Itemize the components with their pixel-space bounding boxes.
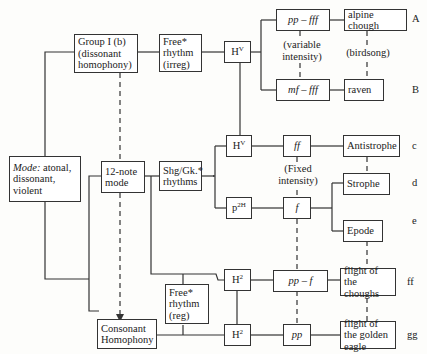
row-label-b: B — [412, 84, 419, 95]
h2-upper-label: H2 — [232, 274, 243, 286]
pp-f-node: pp – f — [273, 270, 328, 292]
raven-label: raven — [348, 84, 380, 96]
f-label: f — [296, 202, 299, 214]
twelve-note-node: 12-note mode — [101, 161, 145, 193]
alpine-chough-label: alpine chough — [348, 9, 403, 32]
hv-top-label: HV — [231, 46, 244, 58]
epode-node: Epode — [343, 220, 383, 242]
mode-label-italic: Mode: — [13, 162, 40, 173]
p2h-label: p2H — [232, 202, 246, 214]
flight-of-eagle-node: flight of the golden eagle — [340, 321, 396, 349]
row-label-e: e — [412, 215, 417, 226]
h2-lower-label: H2 — [232, 329, 243, 341]
pp-fff-node: pp – fff — [276, 9, 330, 31]
group1-label: Group I (b) (dissonant homophony) — [78, 36, 134, 71]
row-label-gg: gg — [407, 329, 418, 340]
row-label-d: d — [412, 177, 417, 188]
h2-lower-node: H2 — [224, 324, 251, 346]
f-node: f — [283, 197, 311, 219]
eagle-flight-label: flight of the golden eagle — [344, 318, 392, 353]
pp-f-label: pp – f — [289, 275, 313, 287]
hv-mid-node: HV — [226, 135, 252, 157]
row-label-c: c — [412, 140, 417, 151]
consonant-homophony-node: Consonant Homophony — [97, 319, 157, 349]
epode-label: Epode — [347, 225, 379, 237]
mf-fff-node: mf – fff — [276, 79, 330, 101]
alpine-chough-node: alpine chough — [344, 9, 407, 31]
strophe-label: Strophe — [347, 178, 386, 190]
shg-gk-label: Shg/Gk.* rhythms — [163, 165, 198, 188]
twelve-note-label: 12-note mode — [105, 166, 141, 189]
p2h-node: p2H — [226, 197, 252, 219]
shg-gk-rhythms-node: Shg/Gk.* rhythms — [159, 161, 202, 191]
choughs-flight-label: flight of the choughs — [344, 265, 392, 300]
free-rhythm-reg-label: Free* rhythm (reg) — [169, 287, 205, 322]
pp-node: pp — [283, 324, 311, 346]
h2-upper-node: H2 — [224, 269, 251, 291]
ff-label: ff — [294, 140, 300, 152]
antistrophe-label: Antistrophe — [347, 140, 396, 152]
ff-node: ff — [283, 135, 311, 157]
strophe-node: Strophe — [343, 173, 390, 195]
row-label-a: A — [412, 13, 420, 24]
hv-top-node: HV — [224, 41, 251, 63]
pp-label: pp — [292, 329, 303, 341]
diagram-canvas: Mode: atonal, dissonant, violent Group I… — [0, 0, 427, 354]
raven-node: raven — [344, 79, 384, 101]
row-label-ff: ff — [407, 276, 414, 287]
mode-node: Mode: atonal, dissonant, violent — [9, 156, 81, 202]
free-rhythm-irreg-node: Free* rhythm (irreg) — [159, 34, 202, 72]
fixed-intensity-note: (Fixed intensity) — [270, 163, 326, 186]
variable-intensity-note: (variable intensity) — [272, 39, 332, 62]
mf-fff-label: mf – fff — [288, 84, 318, 96]
pp-fff-label: pp – fff — [288, 14, 318, 26]
group1-node: Group I (b) (dissonant homophony) — [74, 34, 138, 73]
birdsong-note: (birdsong) — [340, 47, 396, 59]
consonant-label: Consonant Homophony — [101, 323, 153, 346]
flight-of-choughs-node: flight of the choughs — [340, 268, 396, 296]
antistrophe-node: Antistrophe — [343, 135, 400, 157]
free-rhythm-reg-node: Free* rhythm (reg) — [165, 284, 209, 324]
free-rhythm-irreg-label: Free* rhythm (irreg) — [163, 36, 198, 71]
hv-mid-label: HV — [233, 140, 246, 152]
